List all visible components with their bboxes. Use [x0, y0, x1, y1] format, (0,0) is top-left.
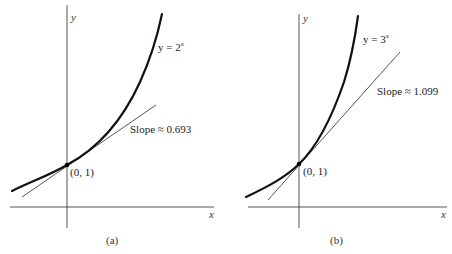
slope-label: Slope ≈ 1.099 — [377, 85, 439, 97]
x-axis-label: x — [440, 208, 446, 220]
panel-caption: (a) — [106, 234, 119, 247]
function-label-exponent: x — [385, 32, 390, 40]
point-marker — [65, 163, 70, 168]
exponential-curve — [12, 14, 162, 191]
y-axis-label: y — [70, 11, 76, 23]
panel-a: y x y = 2x Slope ≈ 0.693 (0, 1) (a) — [10, 5, 214, 247]
function-label-base: y = 3 — [363, 33, 386, 45]
figure: y x y = 2x Slope ≈ 0.693 (0, 1) (a) y x … — [0, 0, 452, 254]
function-label-base: y = 2 — [158, 41, 181, 53]
exponential-curve — [246, 16, 358, 197]
function-label: y = 2x — [158, 40, 185, 53]
point-marker — [297, 162, 302, 167]
x-axis-label: x — [208, 208, 214, 220]
point-label: (0, 1) — [303, 165, 327, 178]
panel-b: y x y = 3x Slope ≈ 1.099 (0, 1) (b) — [246, 12, 447, 247]
function-label: y = 3x — [363, 32, 390, 45]
slope-label: Slope ≈ 0.693 — [130, 123, 192, 135]
function-label-exponent: x — [180, 40, 185, 48]
y-axis-label: y — [302, 12, 308, 24]
point-label: (0, 1) — [70, 166, 94, 179]
tangent-line — [268, 52, 400, 200]
panel-caption: (b) — [330, 234, 343, 247]
